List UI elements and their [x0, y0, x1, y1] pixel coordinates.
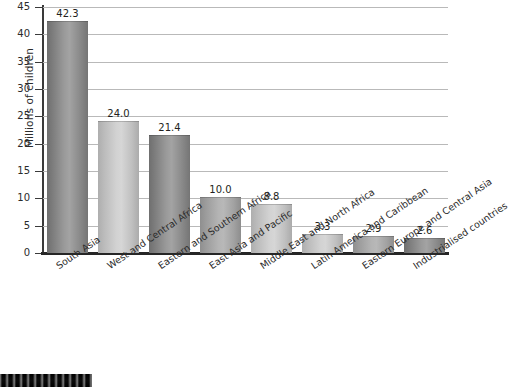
y-tick-label: 10 — [0, 193, 30, 203]
y-tick-label: 5 — [0, 221, 30, 231]
y-tick-mark — [35, 62, 42, 63]
y-tick-label: 30 — [0, 84, 30, 94]
bar-value-label: 21.4 — [158, 123, 180, 133]
bar: 24.0 — [98, 121, 139, 253]
bar: 42.3 — [47, 21, 88, 253]
gridline — [43, 89, 448, 90]
y-tick-label: 20 — [0, 139, 30, 149]
y-tick-mark — [35, 171, 42, 172]
y-tick-label: 35 — [0, 57, 30, 67]
gridline — [43, 7, 448, 8]
gridline — [43, 116, 448, 117]
y-tick-mark — [35, 34, 42, 35]
gridline — [43, 62, 448, 63]
y-tick-label: 25 — [0, 111, 30, 121]
y-tick-mark — [35, 226, 42, 227]
y-tick-label: 0 — [0, 248, 30, 258]
y-tick-mark — [35, 89, 42, 90]
y-tick-mark — [35, 198, 42, 199]
scan-artifact-strip — [0, 374, 92, 387]
bar-value-label: 24.0 — [107, 109, 129, 119]
y-tick-label: 45 — [0, 2, 30, 12]
y-tick-mark — [35, 144, 42, 145]
gridline — [43, 34, 448, 35]
y-tick-mark — [35, 7, 42, 8]
bar-value-label: 42.3 — [56, 9, 78, 19]
bar-value-label: 10.0 — [209, 185, 231, 195]
y-tick-label: 15 — [0, 166, 30, 176]
y-tick-mark — [35, 116, 42, 117]
y-tick-label: 40 — [0, 29, 30, 39]
